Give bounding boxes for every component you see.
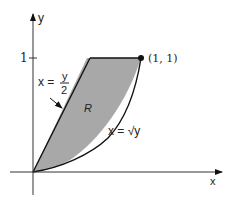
y-axis-label: y xyxy=(38,11,44,25)
sqrt-curve-label: x = √y xyxy=(108,124,140,138)
point-1-1-label: (1, 1) xyxy=(148,52,178,65)
label-pointer-arrow xyxy=(50,98,62,108)
region-label: R xyxy=(84,102,92,114)
point-1-1-marker xyxy=(138,55,144,61)
line-label-denominator: 2 xyxy=(61,84,67,96)
line-label-numerator: y xyxy=(62,70,68,82)
region-diagram: 1 y x (1, 1) R x = y 2 x = √y xyxy=(0,0,237,205)
y-tick-label: 1 xyxy=(20,51,28,65)
line-label-lhs: x = xyxy=(38,75,54,89)
x-axis-label: x xyxy=(210,175,216,187)
